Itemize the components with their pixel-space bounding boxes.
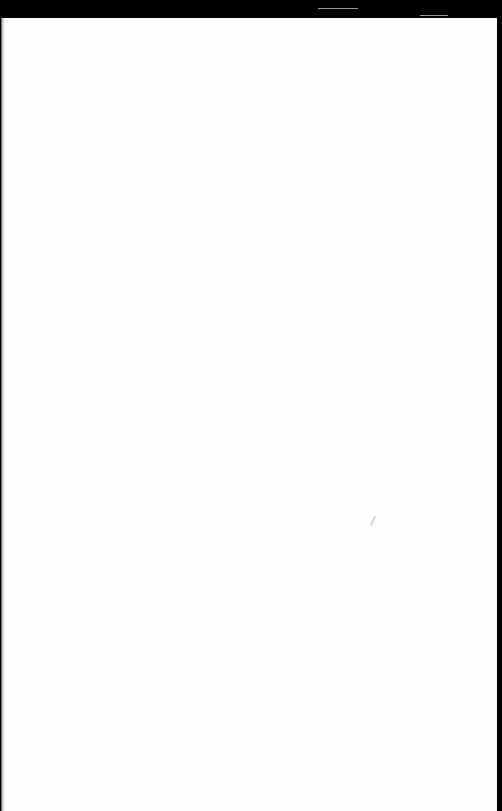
page-edge-shadow [2, 18, 5, 811]
scan-artifact-streak [420, 15, 448, 16]
scanned-page [1, 18, 497, 811]
scan-speck [370, 516, 376, 526]
scan-artifact-streak [318, 8, 358, 9]
